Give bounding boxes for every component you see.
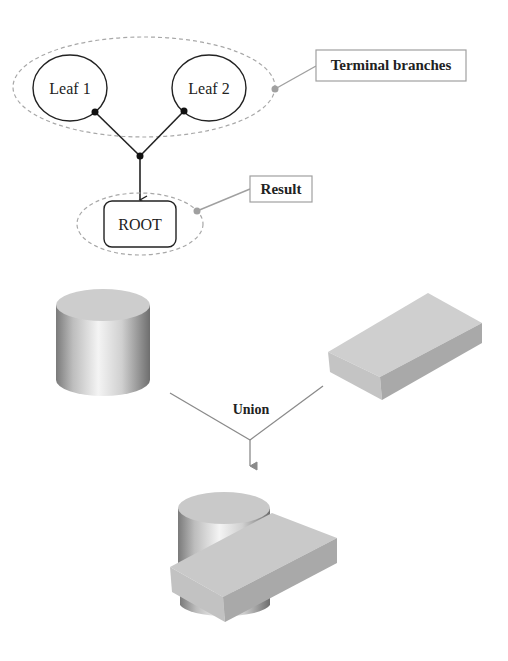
csg-diagram: Leaf 1 Leaf 2 ROOT Terminal branches Res [0,0,508,661]
leaf-1-label: Leaf 1 [49,80,90,97]
terminal-branches-callout: Terminal branches [272,50,467,93]
result-callout: Result [194,176,313,215]
root-label: ROOT [118,216,162,233]
junction-node [137,153,144,160]
union-operation: Union [170,386,323,466]
union-label: Union [233,402,270,417]
terminal-branches-label: Terminal branches [331,57,452,73]
root-node[interactable]: ROOT [104,201,176,247]
cylinder-solid [56,289,150,396]
terminal-branches-group: Leaf 1 Leaf 2 [13,37,275,137]
leaf-2-label: Leaf 2 [188,80,229,97]
result-group: ROOT [77,193,203,255]
union-result-solid [170,492,337,622]
leaf-2-port [181,108,188,115]
tree-edges [92,108,188,201]
leaf-1-port [92,109,99,116]
box-solid [328,293,482,400]
result-label: Result [261,181,302,197]
